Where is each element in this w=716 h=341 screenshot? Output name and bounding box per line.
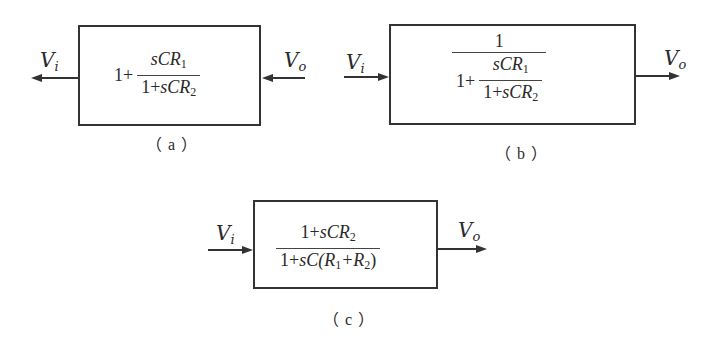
arrow-right-icon (669, 72, 680, 80)
vo-label-c: Vo (458, 218, 480, 244)
num-a-sub: 1 (181, 57, 187, 71)
vi-label-a: Vi (40, 48, 59, 74)
inner-denominator-b: 1+sCR2 (479, 81, 542, 108)
caption-a: （a） (146, 131, 203, 155)
fraction-c: 1+sCR2 1+sC(R1+R2) (276, 221, 380, 276)
expr-a-lead: 1+ (114, 65, 133, 86)
numerator-b: 1 (491, 30, 508, 52)
vi-line-c (208, 249, 244, 251)
den-a-pre: 1+ (141, 77, 160, 97)
vo-line-b (636, 75, 671, 77)
num-c-sub: 2 (350, 230, 356, 244)
vo-line-a (268, 77, 305, 79)
caption-b: （b） (495, 140, 553, 164)
den-a-term: sCR (160, 77, 190, 97)
den-c-mid: +R (341, 250, 364, 270)
vi-line-b (344, 76, 380, 78)
inner-num-b-term: sCR (493, 54, 523, 74)
vo-line-c (438, 248, 478, 250)
vi-line-a (38, 77, 78, 79)
den-b-lead: 1+ (456, 70, 475, 92)
den-c-pre: 1+ (280, 250, 299, 270)
arrow-right-icon (476, 245, 487, 253)
numerator-c: 1+sCR2 (297, 221, 360, 248)
transfer-function-a: 1+ sCR1 1+sCR2 (114, 48, 200, 103)
vo-label-b: Vo (664, 46, 686, 72)
denominator-b: 1+ sCR1 1+sCR2 (452, 53, 546, 108)
transfer-function-c: 1+sCR2 1+sC(R1+R2) (276, 221, 380, 276)
denominator-c: 1+sC(R1+R2) (276, 249, 380, 276)
num-c-term: sCR (320, 222, 350, 242)
caption-c: （c） (323, 306, 380, 330)
inner-num-b-sub: 1 (523, 62, 529, 76)
arrow-right-icon (242, 246, 253, 254)
numerator-a: sCR1 (147, 48, 191, 75)
denominator-a: 1+sCR2 (137, 76, 200, 103)
fraction-b: 1 1+ sCR1 1+sCR2 (452, 30, 546, 108)
num-a-term: sCR (151, 49, 181, 69)
den-a-sub: 2 (190, 85, 196, 99)
den-c-post: ) (370, 250, 376, 270)
transfer-function-b: 1 1+ sCR1 1+sCR2 (452, 30, 546, 108)
vi-label-b: Vi (346, 50, 365, 76)
vo-label-a: Vo (284, 48, 306, 74)
num-c-pre: 1+ (301, 222, 320, 242)
inner-numerator-b: sCR1 (489, 53, 533, 80)
arrow-left-icon (31, 74, 42, 82)
inner-den-b-pre: 1+ (483, 82, 502, 102)
den-c-term: sC(R (299, 250, 335, 270)
inner-den-b-sub: 2 (532, 90, 538, 104)
inner-fraction-b: sCR1 1+sCR2 (479, 53, 542, 108)
inner-den-b-term: sCR (502, 82, 532, 102)
arrow-left-icon (262, 74, 273, 82)
arrow-right-icon (378, 73, 389, 81)
fraction-a: sCR1 1+sCR2 (137, 48, 200, 103)
vi-label-c: Vi (216, 221, 235, 247)
